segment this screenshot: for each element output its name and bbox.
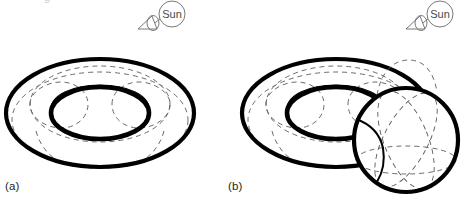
panel-b-group: Sun xyxy=(242,1,458,196)
figure-root: g xyxy=(0,0,469,212)
panel-label-a: (a) xyxy=(5,180,19,192)
sun-viewpoint-b[interactable]: Sun xyxy=(406,1,453,31)
torus-a-hole-silhouette xyxy=(51,87,149,139)
sun-label-a: Sun xyxy=(162,8,182,20)
panel-a-group: Sun xyxy=(6,1,194,168)
sun-label-b: Sun xyxy=(430,8,450,20)
sun-viewpoint-a[interactable]: Sun xyxy=(138,1,185,31)
panel-label-b: (b) xyxy=(228,180,242,192)
